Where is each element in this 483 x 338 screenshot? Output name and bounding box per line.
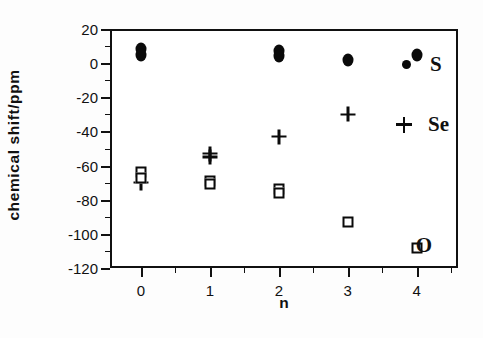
y-tick-minor [105, 149, 110, 150]
y-tick-major [101, 166, 110, 168]
x-tick-minor [451, 268, 452, 273]
y-tick-label: -100 [68, 225, 98, 242]
plot-area: 200-20-40-60-80-100-120 01234 S Se [110, 29, 458, 268]
data-point-o [342, 216, 353, 227]
y-tick-minor [105, 80, 110, 81]
x-tick-major [279, 268, 281, 277]
y-tick-label: -20 [76, 89, 98, 106]
y-tick-major [101, 29, 110, 31]
legend-label-se: Se [428, 114, 449, 135]
data-point-o [136, 172, 147, 183]
y-tick-major [101, 97, 110, 99]
y-tick-label: -80 [76, 191, 98, 208]
x-tick-label: 4 [412, 282, 420, 299]
data-point-se [202, 150, 217, 165]
x-tick-label: 0 [137, 282, 145, 299]
data-point-s [342, 53, 353, 66]
x-tick-label: 1 [206, 282, 214, 299]
data-point-se [271, 129, 286, 144]
plus-icon [396, 117, 412, 133]
y-tick-label: -40 [76, 123, 98, 140]
y-tick-label: -60 [76, 157, 98, 174]
x-tick-major [417, 268, 419, 277]
filled-circle-icon [398, 57, 414, 73]
legend-entry-se: Se [396, 114, 449, 135]
y-tick-minor [105, 251, 110, 252]
data-point-o [273, 187, 284, 198]
y-tick-minor [105, 114, 110, 115]
y-tick-major [101, 234, 110, 236]
y-tick-major [101, 200, 110, 202]
legend-entry-s: S [398, 54, 442, 75]
data-point-s [136, 48, 147, 61]
y-tick-minor [105, 46, 110, 47]
y-tick-label: 20 [81, 21, 98, 38]
x-tick-major [210, 268, 212, 277]
y-axis-title: chemical shift/ppm [5, 69, 23, 220]
x-tick-minor [382, 268, 383, 273]
x-tick-minor [313, 268, 314, 273]
data-point-s [273, 50, 284, 63]
annotation-label-o: O [416, 233, 432, 258]
data-point-se [340, 107, 355, 122]
x-tick-minor [175, 268, 176, 273]
y-tick-label: 0 [90, 55, 98, 72]
y-tick-major [101, 131, 110, 133]
y-tick-minor [105, 183, 110, 184]
y-tick-minor [105, 217, 110, 218]
x-tick-label: 3 [344, 282, 352, 299]
y-tick-major [101, 268, 110, 270]
data-point-o [204, 179, 215, 190]
y-tick-major [101, 63, 110, 65]
x-tick-minor [244, 268, 245, 273]
x-tick-label: 2 [275, 282, 283, 299]
legend-label-s: S [430, 54, 442, 75]
y-tick-label: -120 [68, 260, 98, 277]
x-tick-major [348, 268, 350, 277]
figure-canvas: chemical shift/ppm n 200-20-40-60-80-100… [0, 0, 483, 338]
x-tick-major [141, 268, 143, 277]
